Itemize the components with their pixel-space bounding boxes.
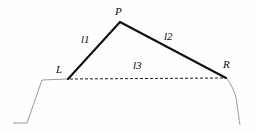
vertex-label-peak: P bbox=[115, 6, 122, 17]
right-tail-path bbox=[226, 78, 240, 125]
baseline-segment-l3 bbox=[70, 78, 224, 79]
segment-label-right-slope: l2 bbox=[164, 31, 173, 42]
figure-canvas: P L R l1 l2 l3 bbox=[0, 0, 256, 133]
segment-label-left-slope: l1 bbox=[81, 34, 90, 45]
segment-label-baseline: l3 bbox=[133, 60, 142, 71]
vertex-label-left: L bbox=[56, 64, 62, 75]
diagram-svg bbox=[0, 0, 256, 133]
left-tail-path bbox=[13, 79, 68, 123]
left-slope-segment-l1 bbox=[68, 22, 120, 79]
vertex-label-right: R bbox=[223, 59, 230, 70]
